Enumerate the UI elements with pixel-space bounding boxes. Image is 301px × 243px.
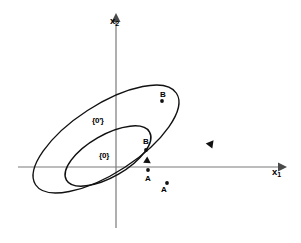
x2-axis [112,13,121,228]
outer-orbit-point-b-label: B [160,91,166,99]
figure-canvas [0,0,301,243]
outer-orbit-set-label: {0'} [92,117,104,125]
outer-orbit-point-b [160,99,164,103]
outer-orbit-direction-arrow [206,138,217,149]
inner-orbit-direction-arrow [143,156,151,163]
inner-orbit-set-label: {0} [99,152,109,160]
y-axis-label: x2 [110,16,119,27]
inner-orbit-point-a-label: A [145,175,151,183]
y-axis-label-subscript: 2 [115,20,119,27]
outer-orbit-point-a-label: A [161,186,167,194]
outer-orbit-group [17,65,217,214]
x-axis-label-subscript: 1 [277,171,281,178]
outer-orbit-curve [17,65,195,214]
inner-orbit-point-b-label: B [143,138,149,146]
x-axis-label: x1 [272,167,281,178]
phase-plane-figure: x2 x1 {0'} {0} B B A A [0,0,301,243]
inner-orbit-point-b [144,148,148,152]
inner-orbit-point-a [146,168,150,172]
x1-axis [18,163,287,172]
